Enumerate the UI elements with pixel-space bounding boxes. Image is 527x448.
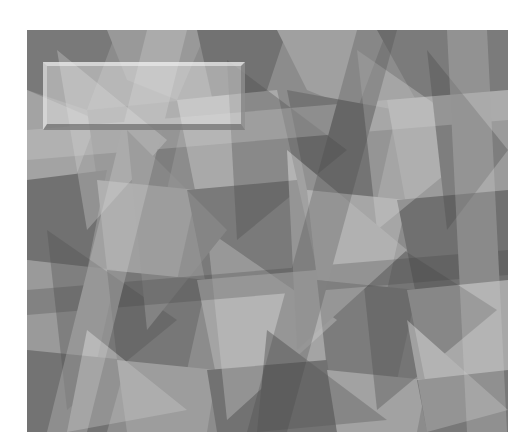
- overlay-text-box: [43, 62, 245, 130]
- abstract-polygon-pattern-image: [27, 30, 508, 432]
- caption-text: [37, 440, 497, 448]
- page: [0, 0, 527, 448]
